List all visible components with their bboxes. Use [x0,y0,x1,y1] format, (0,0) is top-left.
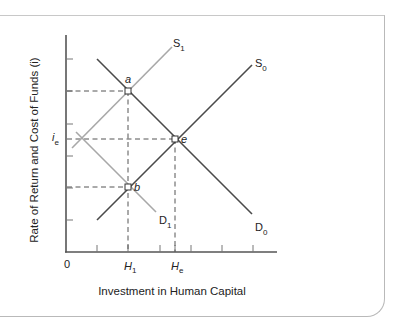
x-axis-title: Investment in Human Capital [98,285,246,297]
point-a-label: a [125,73,131,85]
s0-label: S0 [255,57,267,73]
d1-label: D1 [159,214,172,230]
guide-lines [67,91,175,252]
point-e-marker [172,136,178,142]
origin-label: 0 [64,258,70,270]
h1-label: H1 [124,260,137,275]
supply-demand-chart: a e b S1 S0 D1 D0 0 H1 He ie Rate of Ret… [0,0,405,328]
ie-label: ie [52,131,59,147]
y-axis-title: Rate of Return and Cost of Funds (i) [28,57,40,243]
he-label: He [171,260,184,275]
s1-label: S1 [173,37,185,53]
d0-label: D0 [255,221,268,237]
s1-curve [72,47,172,148]
point-b-marker [125,184,131,190]
point-e-label: e [181,133,187,145]
point-a-marker [125,88,131,94]
point-b-label: b [134,181,140,193]
